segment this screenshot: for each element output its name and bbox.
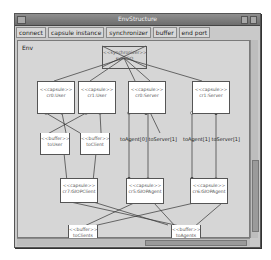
- synchronizer-name: syncGO: [116, 56, 133, 61]
- maximize-icon[interactable]: [250, 16, 257, 24]
- capsule-server-1[interactable]: <<capsule>> cr1:Server: [192, 81, 230, 114]
- capsule-name: cr7:GIOPClient: [63, 189, 96, 194]
- buffer-to-client[interactable]: <<buffer>> toClient: [80, 133, 110, 155]
- title-bar[interactable]: EnvStructure: [15, 14, 260, 26]
- diagram-canvas[interactable]: Env: [17, 40, 250, 238]
- synchronizer-node[interactable]: <<synchronizer>> syncGO: [102, 46, 147, 69]
- buffer-name: toClient: [86, 142, 104, 147]
- capsule-name: cr1:Server: [199, 93, 222, 98]
- capsule-name: cr0:User: [47, 93, 66, 98]
- horizontal-scrollbar[interactable]: [17, 238, 250, 246]
- capsule-giop-agent-1[interactable]: <<capsule>> cr6:GIOPAgent: [190, 178, 228, 204]
- port-label-agent0: toAgent[0] toServer[1]: [120, 136, 177, 142]
- capsule-user-1[interactable]: <<capsule>> cr1:User: [78, 81, 116, 114]
- end-port-button[interactable]: end port: [179, 27, 211, 38]
- buffer-name: toUser: [48, 142, 63, 147]
- window-title: EnvStructure: [15, 15, 260, 22]
- minimize-icon[interactable]: [241, 16, 248, 24]
- buffer-button[interactable]: buffer: [153, 27, 177, 38]
- toolbar: connect capsule instance synchronizer bu…: [16, 27, 210, 38]
- capsule-name: cr5:GIOPAgent: [129, 189, 162, 194]
- capsule-instance-button[interactable]: capsule instance: [48, 27, 104, 38]
- capsule-giop-client[interactable]: <<capsule>> cr7:GIOPClient: [60, 178, 98, 203]
- capsule-giop-agent-0[interactable]: <<capsule>> cr5:GIOPAgent: [126, 178, 164, 204]
- capsule-name: cr1:User: [88, 93, 107, 98]
- capsule-name: cr0:Server: [135, 93, 158, 98]
- connect-button[interactable]: connect: [16, 27, 46, 38]
- horizontal-scroll-thumb[interactable]: [145, 240, 247, 246]
- capsule-name: cr6:GIOPAgent: [193, 189, 226, 194]
- vertical-scrollbar[interactable]: [250, 40, 258, 238]
- vertical-scroll-thumb[interactable]: [252, 160, 259, 232]
- port-label-agent1: toAgent[1] toServer[1]: [183, 136, 240, 142]
- capsule-server-0[interactable]: <<capsule>> cr0:Server: [128, 81, 166, 114]
- buffer-to-user[interactable]: <<buffer>> toUser: [40, 133, 70, 155]
- capsule-user-0[interactable]: <<capsule>> cr0:User: [37, 81, 75, 114]
- env-structure-window: EnvStructure connect capsule instance sy…: [14, 13, 261, 248]
- synchronizer-button[interactable]: synchronizer: [106, 27, 150, 38]
